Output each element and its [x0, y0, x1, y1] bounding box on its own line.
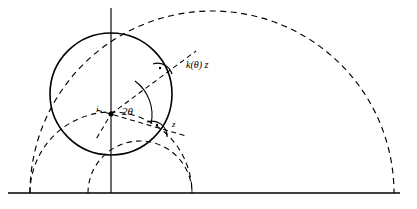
label-point-z: z [172, 120, 176, 129]
small-dashed-arc [88, 141, 192, 193]
figure-canvas: i 2θ z k(θ) z [0, 0, 417, 209]
right-angle-dot-kz [159, 67, 161, 69]
right-angle-arc-kz [153, 63, 172, 74]
center-point-marker [109, 112, 114, 117]
dashed-stub-below-center [95, 119, 108, 141]
right-angle-dot-z [156, 124, 158, 126]
diagram-svg [0, 0, 417, 209]
label-point-k-theta-z: k(θ) z [186, 60, 208, 70]
label-angle-2theta: 2θ [122, 106, 133, 117]
angle-arc-2theta [135, 81, 152, 124]
label-i: i [96, 105, 99, 114]
